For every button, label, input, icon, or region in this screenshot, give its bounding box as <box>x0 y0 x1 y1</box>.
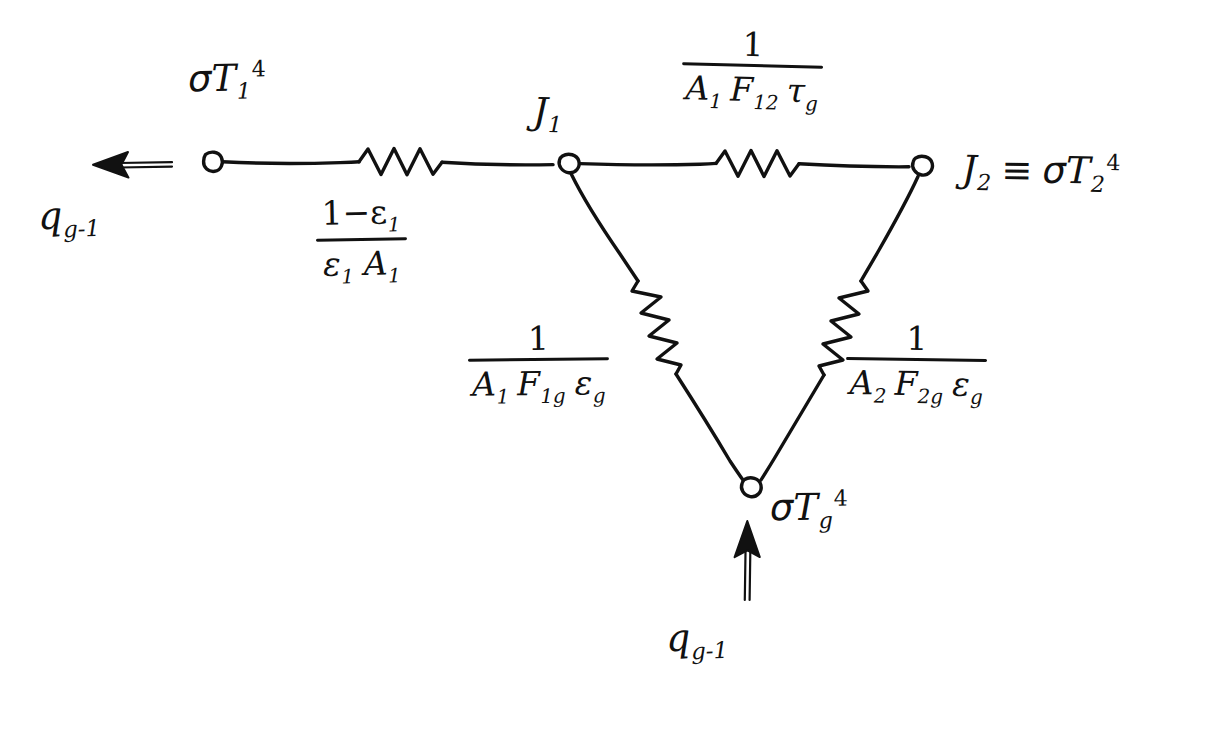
space12-den-F-sub: 12 <box>753 91 779 115</box>
resistance-gas-2g-formula: 1 A2F2gεg <box>845 321 987 407</box>
space12-den-A: A <box>685 68 710 108</box>
T2-exponent: 4 <box>1105 149 1121 175</box>
gas2g-den-A: A <box>849 363 873 402</box>
J2-subscript: 2 <box>977 169 992 195</box>
gas2g-den-F-sub: 2g <box>917 385 943 408</box>
surface1-den-A: A <box>353 244 388 284</box>
wire-j1-to-r1g <box>571 174 638 282</box>
wire-r12-to-j2 <box>799 164 909 167</box>
T2-symbol: T <box>1066 149 1091 192</box>
Tg-subscript: g <box>818 507 833 533</box>
wire-j1-to-r12 <box>580 163 716 164</box>
heat-flow-arrow-left <box>119 162 172 167</box>
resistance-gas-1g-formula: 1 A1F1gεg <box>468 321 610 407</box>
J1-symbol: J <box>533 90 549 133</box>
q-symbol-left: q <box>37 193 63 238</box>
surface1-num-text: 1−ε <box>321 193 387 233</box>
gas1g-den-eps: ε <box>565 363 592 402</box>
gas2g-den-eps: ε <box>943 364 970 403</box>
space12-den-F: F <box>722 69 754 109</box>
q-left-subscript: g-1 <box>62 214 100 241</box>
label-sigma-Tg: σTg4 <box>770 487 848 532</box>
sigma-symbol-2: σ <box>1042 149 1066 192</box>
surface1-num-sub: 1 <box>387 213 400 236</box>
node-surface1 <box>204 152 223 171</box>
wire-node1-to-r1 <box>223 162 360 164</box>
identity-symbol: ≡ <box>991 148 1043 192</box>
gas2g-den-A-sub: 2 <box>873 384 886 407</box>
J1-subscript: 1 <box>547 111 562 137</box>
space12-den-A-sub: 1 <box>709 89 723 112</box>
gas1g-den-eps-sub: g <box>592 384 605 407</box>
sigma-symbol: σ <box>188 57 212 100</box>
gas1g-den-F: F <box>509 364 540 403</box>
node-j2 <box>913 156 933 175</box>
gas2g-den-F: F <box>886 364 917 403</box>
q-symbol-bottom: q <box>665 615 691 660</box>
surface1-den-eps: ε <box>323 245 341 284</box>
diagram-canvas: σT14 qg-1 J1 J2≡σT24 σTg4 qg-1 1−ε1 ε1A1… <box>0 0 1208 735</box>
wire-r1g-to-gasnode <box>676 374 743 480</box>
space12-numerator: 1 <box>682 26 823 65</box>
gas2g-den-eps-sub: g <box>969 385 982 408</box>
surface1-numerator: 1−ε1 <box>315 195 407 239</box>
label-q-bottom: qg-1 <box>665 617 728 664</box>
T2-subscript: 2 <box>1090 171 1105 197</box>
wire-r1-to-j1 <box>442 162 553 165</box>
gas1g-den-F-sub: 1g <box>540 384 566 407</box>
heat-flow-arrowhead-left <box>93 152 129 178</box>
resistance-space-12-formula: 1 A1F12τg <box>681 26 824 114</box>
surface1-den-eps-sub: 1 <box>341 265 354 288</box>
T1-exponent: 4 <box>250 55 266 81</box>
label-j1: J1 <box>532 93 562 136</box>
gas1g-den-A-sub: 1 <box>496 385 509 408</box>
gas2g-numerator: 1 <box>846 321 988 359</box>
node-gas <box>741 478 761 497</box>
heat-flow-arrow-bottom <box>745 546 751 600</box>
resistor-surface-1 <box>359 149 442 175</box>
T-symbol: T <box>211 57 237 100</box>
surface1-denominator: ε1A1 <box>316 240 408 287</box>
label-j2-identity: J2≡σT24 <box>962 149 1121 196</box>
wire-j2-to-r2g <box>861 177 918 282</box>
T1-subscript: 1 <box>236 78 251 104</box>
q-bottom-subscript: g-1 <box>690 636 728 663</box>
resistor-space-12 <box>716 151 799 177</box>
resistor-gas-1g <box>632 281 681 374</box>
sigma-symbol-g: σ <box>770 486 794 529</box>
gas1g-den-A: A <box>472 364 496 403</box>
heat-flow-arrowhead-bottom <box>735 521 760 557</box>
wire-r2g-to-gasnode <box>761 375 824 480</box>
label-sigma-T1: σT14 <box>188 57 267 103</box>
Tg-exponent: 4 <box>833 485 849 511</box>
node-j1 <box>559 154 579 173</box>
gas1g-denominator: A1F1gεg <box>468 360 610 407</box>
resistance-surface-1-formula: 1−ε1 ε1A1 <box>315 195 407 287</box>
J2-symbol: J <box>962 148 977 191</box>
label-q-left: qg-1 <box>37 195 100 242</box>
space12-den-tau-sub: g <box>804 92 818 115</box>
space12-denominator: A1F12τg <box>681 65 823 114</box>
gas2g-denominator: A2F2gεg <box>845 360 987 407</box>
space12-den-tau: τ <box>778 71 805 111</box>
gas1g-numerator: 1 <box>468 321 610 358</box>
surface1-den-A-sub: 1 <box>388 264 401 287</box>
Tg-symbol: T <box>793 486 818 529</box>
